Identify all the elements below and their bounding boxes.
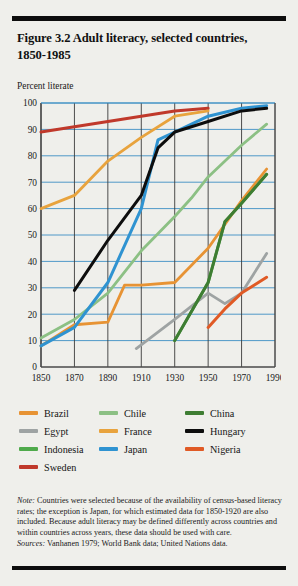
chart-plot-area: 0102030405060708090100185018701890191019…: [17, 95, 281, 395]
legend-label-chile: Chile: [124, 408, 146, 419]
svg-text:40: 40: [28, 257, 38, 267]
svg-text:1950: 1950: [199, 373, 218, 383]
bottom-rule: [12, 566, 286, 570]
legend-item-egypt: Egypt: [19, 426, 99, 437]
y-axis-caption: Percent literate: [17, 81, 73, 91]
legend-label-france: France: [124, 426, 152, 437]
svg-text:1990: 1990: [266, 373, 281, 383]
figure-note: Note: Countries were selected because of…: [17, 496, 283, 549]
svg-text:60: 60: [28, 204, 38, 214]
svg-text:30: 30: [28, 283, 38, 293]
title-line-1: Figure 3.2 Adult literacy, selected coun…: [17, 31, 247, 45]
legend-swatch-japan: [99, 447, 118, 452]
svg-text:1870: 1870: [65, 373, 84, 383]
note-label: Note:: [17, 496, 35, 505]
legend-swatch-china: [185, 411, 204, 416]
svg-text:0: 0: [32, 362, 37, 372]
legend-item-france: France: [99, 426, 185, 437]
legend-row: Sweden: [19, 458, 281, 476]
legend-label-nigeria: Nigeria: [210, 444, 241, 455]
chart-legend: Brazil Chile China Egypt France Hu: [19, 404, 281, 476]
legend-swatch-egypt: [19, 429, 38, 433]
svg-text:90: 90: [28, 125, 38, 135]
legend-label-sweden: Sweden: [44, 462, 76, 473]
legend-swatch-chile: [99, 411, 118, 415]
legend-item-china: China: [185, 408, 234, 419]
legend-label-indonesia: Indonesia: [44, 444, 84, 455]
legend-swatch-brazil: [19, 411, 38, 415]
legend-item-brazil: Brazil: [19, 408, 99, 419]
svg-text:50: 50: [28, 230, 38, 240]
legend-item-sweden: Sweden: [19, 462, 99, 473]
figure-page: Figure 3.2 Adult literacy, selected coun…: [0, 0, 298, 586]
literacy-line-chart: 0102030405060708090100185018701890191019…: [17, 95, 281, 395]
legend-label-brazil: Brazil: [44, 408, 69, 419]
legend-item-hungary: Hungary: [185, 426, 246, 437]
legend-item-chile: Chile: [99, 408, 185, 419]
sources-label: Sources:: [17, 539, 45, 548]
legend-row: Egypt France Hungary: [19, 422, 281, 440]
legend-swatch-sweden: [19, 465, 38, 470]
legend-item-indonesia: Indonesia: [19, 444, 99, 455]
note-body: Countries were selected because of the a…: [17, 496, 282, 537]
title-line-2: 1850-1985: [17, 48, 71, 62]
svg-text:1850: 1850: [32, 373, 51, 383]
svg-text:10: 10: [28, 336, 38, 346]
legend-label-hungary: Hungary: [210, 426, 246, 437]
svg-text:20: 20: [28, 310, 38, 320]
figure-sources: Sources: Vanhanen 1979; World Bank data;…: [17, 539, 283, 550]
legend-item-japan: Japan: [99, 444, 185, 455]
legend-label-china: China: [210, 408, 234, 419]
svg-text:1970: 1970: [232, 373, 251, 383]
svg-text:1890: 1890: [98, 373, 117, 383]
legend-swatch-hungary: [185, 429, 204, 434]
sources-body: Vanhanen 1979; World Bank data; United N…: [45, 539, 228, 548]
legend-row: Brazil Chile China: [19, 404, 281, 422]
svg-text:1930: 1930: [165, 373, 184, 383]
svg-text:100: 100: [23, 98, 37, 108]
legend-swatch-indonesia: [19, 447, 38, 451]
svg-text:70: 70: [28, 178, 38, 188]
legend-swatch-france: [99, 429, 118, 433]
legend-swatch-nigeria: [185, 447, 204, 452]
legend-item-nigeria: Nigeria: [185, 444, 241, 455]
top-rule: [12, 16, 286, 21]
svg-text:1910: 1910: [132, 373, 151, 383]
legend-row: Indonesia Japan Nigeria: [19, 440, 281, 458]
svg-text:80: 80: [28, 151, 38, 161]
legend-label-egypt: Egypt: [44, 426, 68, 437]
legend-label-japan: Japan: [124, 444, 147, 455]
page-title: Figure 3.2 Adult literacy, selected coun…: [17, 30, 279, 63]
